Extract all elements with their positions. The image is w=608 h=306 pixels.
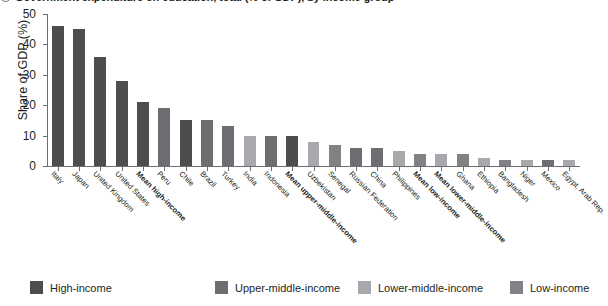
bar [180,120,192,166]
y-tick-label: 0 [29,159,36,173]
bar [329,145,341,166]
bar [73,29,85,166]
bar [393,151,405,166]
bar [457,154,469,166]
y-tick-label: 20 [23,98,36,112]
bar [222,126,234,166]
bar [244,136,256,166]
y-tick-label: 40 [23,37,36,51]
bar [94,57,106,166]
legend-label: Low-income [530,282,589,294]
legend-item[interactable]: Low-income [510,281,589,294]
legend-item[interactable]: Lower-middle-income [358,281,483,294]
bar [435,154,447,166]
legend-swatch [358,281,371,294]
bar [201,120,213,166]
x-tick-label: Mexico [539,170,562,193]
chart-legend: High-incomeUpper-middle-incomeLower-midd… [0,281,588,303]
y-tick-label: 30 [23,68,36,82]
bar [286,136,298,166]
legend-label: Upper-middle-income [235,282,340,294]
legend-item[interactable]: Upper-middle-income [215,281,340,294]
bar [499,160,511,166]
bar [521,160,533,166]
x-tick-label: India [241,170,258,187]
bar [308,142,320,166]
y-tick-label: 50 [23,7,36,21]
legend-label: High-income [50,282,112,294]
legend-item[interactable]: High-income [30,281,112,294]
bar [350,148,362,166]
bar [563,160,575,166]
x-axis-labels: ItalyJapanUnited KingdomUnited StatesMea… [47,170,580,254]
y-tick-label: 10 [23,129,36,143]
bar-series [47,14,580,167]
bar [265,136,277,166]
x-tick-label: Turkey [220,170,242,192]
bullet-icon [0,0,11,2]
bar [478,158,490,166]
bar [414,154,426,166]
bar [116,81,128,166]
legend-swatch [215,281,228,294]
legend-swatch [30,281,43,294]
x-tick-label: Italy [49,170,65,186]
x-tick-label: Niger [518,170,536,188]
bar [158,108,170,166]
x-tick-label: Peru [156,170,173,187]
x-tick-label: Japan [70,170,90,190]
legend-swatch [510,281,523,294]
chart-title: Government expenditure on education, tot… [0,0,588,5]
x-tick-label: Brazil [198,170,217,189]
legend-label: Lower-middle-income [378,282,483,294]
chart-title-text: Government expenditure on education, tot… [15,0,394,3]
x-tick-label: Egypt, Arab Rep. [561,170,607,216]
bar [542,160,554,166]
bar [371,148,383,166]
bar [137,102,149,166]
bar [52,26,64,166]
x-tick-label: Chile [177,170,195,188]
plot-area: 01020304050 [47,14,580,167]
